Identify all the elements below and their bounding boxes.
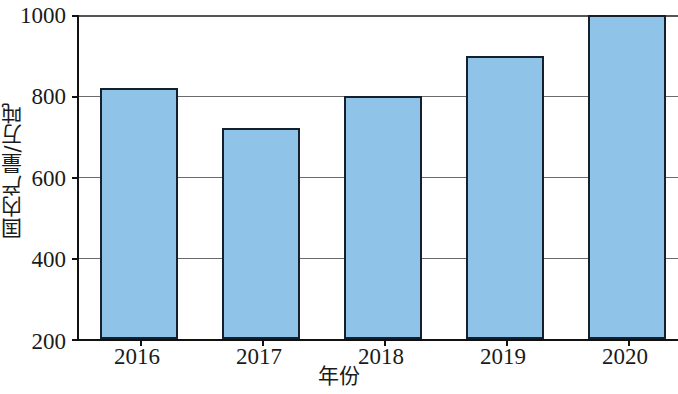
y-tick-mark-200 — [72, 339, 79, 341]
plot-area — [77, 15, 678, 341]
x-axis-title-text: 年份 — [318, 364, 360, 388]
bar-2016 — [100, 88, 178, 339]
y-tick-mark-800 — [72, 96, 79, 98]
x-tick-label-2018: 2018 — [358, 345, 404, 368]
x-axis-title: 年份 — [0, 366, 678, 387]
y-tick-label-1000: 1000 — [20, 4, 66, 27]
bar-2020 — [588, 15, 666, 339]
y-tick-mark-600 — [72, 177, 79, 179]
y-tick-mark-400 — [72, 258, 79, 260]
y-axis-tick-labels: 1000 800 600 400 200 — [12, 0, 72, 360]
x-tick-label-2017: 2017 — [236, 345, 282, 368]
y-tick-label-400: 400 — [32, 248, 67, 271]
bar-2017 — [222, 128, 300, 339]
bar-chart-figure: 国内产量/万吨 1000 800 600 400 200 — [0, 0, 678, 394]
x-tick-label-2016: 2016 — [114, 345, 160, 368]
x-tick-label-2020: 2020 — [602, 345, 648, 368]
bar-2018 — [344, 96, 422, 339]
bar-2019 — [466, 56, 544, 340]
x-tick-label-2019: 2019 — [480, 345, 526, 368]
y-tick-label-200: 200 — [32, 330, 67, 353]
y-tick-label-800: 800 — [32, 85, 67, 108]
y-tick-mark-1000 — [72, 15, 79, 17]
y-tick-label-600: 600 — [32, 167, 67, 190]
